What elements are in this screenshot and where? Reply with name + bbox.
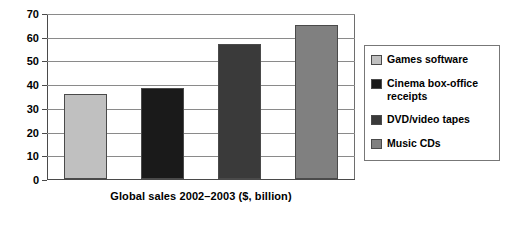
legend-item: Cinema box-office receipts xyxy=(371,77,493,103)
legend-label: DVD/video tapes xyxy=(387,113,470,126)
y-tick-label: 70 xyxy=(27,9,39,20)
y-tick-label: 10 xyxy=(27,151,39,162)
y-tick-label: 60 xyxy=(27,32,39,43)
y-tick-label: 50 xyxy=(27,56,39,67)
legend-item: DVD/video tapes xyxy=(371,113,493,126)
bar xyxy=(64,94,107,179)
plot-area: 010203040506070 xyxy=(47,14,355,180)
bar-series xyxy=(47,14,355,180)
bar xyxy=(218,44,261,179)
bar xyxy=(295,25,338,179)
y-tick-label: 40 xyxy=(27,80,39,91)
x-axis-title: Global sales 2002–2003 ($, billion) xyxy=(47,190,355,202)
legend-swatch xyxy=(371,79,382,89)
legend-label: Games software xyxy=(387,53,468,66)
y-tick-label: 0 xyxy=(33,175,39,186)
legend-swatch xyxy=(371,55,382,65)
bar xyxy=(141,88,184,179)
legend-swatch xyxy=(371,139,382,149)
y-tick-mark xyxy=(42,180,47,181)
bar-chart-figure: 010203040506070 Global sales 2002–2003 (… xyxy=(0,0,508,229)
legend-label: Cinema box-office receipts xyxy=(387,77,493,103)
legend-item: Games software xyxy=(371,53,493,66)
chart-legend: Games softwareCinema box-office receipts… xyxy=(364,45,500,161)
legend-item: Music CDs xyxy=(371,137,493,150)
legend-label: Music CDs xyxy=(387,137,441,150)
y-tick-label: 30 xyxy=(27,103,39,114)
legend-swatch xyxy=(371,115,382,125)
y-tick-label: 20 xyxy=(27,127,39,138)
